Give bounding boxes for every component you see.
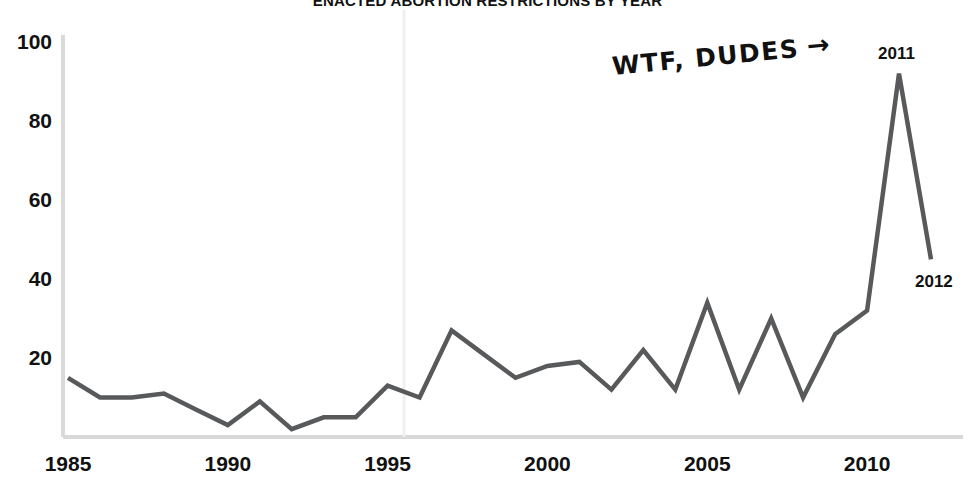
y-axis-tick-labels: 20406080100	[0, 0, 52, 498]
data-line-series	[68, 74, 931, 430]
x-tick-label-2010: 2010	[844, 452, 891, 476]
plot-area	[0, 0, 975, 498]
y-tick-label-40: 40	[0, 267, 52, 291]
x-tick-label-1990: 1990	[204, 452, 251, 476]
x-tick-label-1995: 1995	[364, 452, 411, 476]
x-tick-label-1985: 1985	[45, 452, 92, 476]
point-label-2011: 2011	[878, 44, 915, 64]
chart-figure: ENACTED ABORTION RESTRICTIONS BY YEAR 20…	[0, 0, 975, 498]
y-tick-label-60: 60	[0, 188, 52, 212]
y-tick-label-100: 100	[0, 30, 52, 54]
x-tick-label-2005: 2005	[684, 452, 731, 476]
y-tick-label-80: 80	[0, 109, 52, 133]
point-label-2012: 2012	[915, 272, 953, 292]
y-tick-label-20: 20	[0, 346, 52, 370]
x-tick-label-2000: 2000	[524, 452, 571, 476]
chart-svg	[0, 0, 975, 498]
arrow-icon: →	[805, 28, 832, 61]
